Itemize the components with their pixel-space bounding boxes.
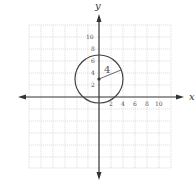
arrow-right-icon [176,95,184,100]
coordinate-plane: x y 2 4 6 8 10 2 4 6 8 10 4 [0,0,196,189]
arrow-down-icon [97,172,102,180]
svg-text:8: 8 [91,45,95,52]
x-tick-labels: 2 4 6 8 10 [109,100,163,107]
svg-text:4: 4 [91,69,95,76]
arrow-left-icon [18,95,26,100]
y-tick-labels: 2 4 6 8 10 [86,33,95,88]
svg-text:10: 10 [155,100,163,107]
svg-text:6: 6 [133,100,137,107]
svg-text:6: 6 [91,57,95,64]
x-axis: x [18,91,195,102]
radius-label: 4 [104,64,110,75]
y-axis-label: y [94,0,101,11]
arrow-up-icon [97,14,102,22]
svg-text:4: 4 [121,100,125,107]
x-axis-label: x [189,91,195,102]
svg-text:8: 8 [145,100,149,107]
y-axis: y [94,0,102,180]
svg-text:10: 10 [86,33,94,40]
svg-text:2: 2 [91,81,95,88]
